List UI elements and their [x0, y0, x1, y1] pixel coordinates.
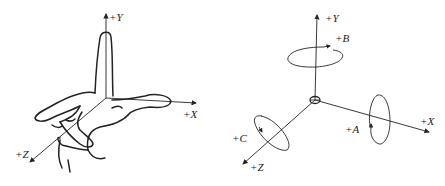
left-z-label: +Z	[15, 149, 29, 160]
right-x-axis	[315, 100, 429, 132]
rotation-a-ellipse	[369, 95, 390, 144]
right-x-label: +X	[420, 116, 434, 127]
right-c-label: +C	[232, 133, 247, 144]
left-x-axis	[106, 98, 196, 103]
right-z-axis	[243, 100, 315, 164]
left-x-label: +X	[183, 109, 197, 120]
left-y-label: +Y	[109, 12, 123, 23]
rotation-c-ellipse	[254, 116, 289, 151]
hand-illustration	[35, 32, 171, 172]
diagram-canvas	[0, 0, 445, 186]
right-a-label: +A	[345, 124, 359, 135]
right-b-label: +B	[335, 33, 349, 44]
right-y-label: +Y	[325, 13, 339, 24]
rotation-b-ellipse	[288, 47, 343, 67]
right-z-label: +Z	[250, 162, 264, 173]
right-y-axis	[315, 15, 317, 100]
